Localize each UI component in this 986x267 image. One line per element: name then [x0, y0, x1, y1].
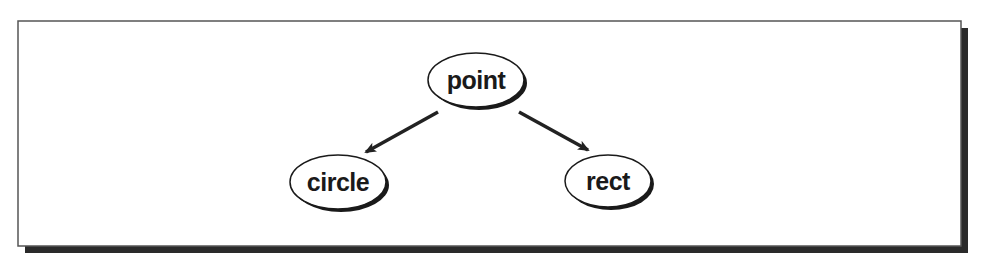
- node-circle-label: circle: [307, 168, 370, 196]
- inheritance-diagram: point circle rect: [0, 0, 986, 267]
- node-rect-label: rect: [586, 167, 631, 195]
- node-point-label: point: [447, 66, 507, 94]
